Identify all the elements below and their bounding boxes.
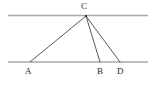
vertex-label-c: C [81,2,87,11]
segment-CA [30,16,86,62]
segment-CD [86,16,120,62]
vertex-label-a: A [25,67,32,76]
vertex-label-b: B [97,67,103,76]
vertex-label-d: D [117,67,124,76]
vertex-dot-C [85,15,87,17]
geometry-figure: C A B D [0,0,154,88]
segment-CB [86,16,100,62]
geometry-canvas [0,0,154,88]
